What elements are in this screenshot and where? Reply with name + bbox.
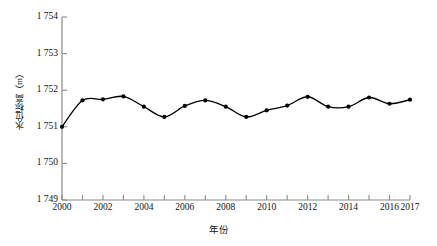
- x-axis-tick-labels: 2000200220042006200820102012201420162017: [0, 0, 437, 246]
- x-tick-label: 2010: [257, 203, 276, 213]
- x-tick-label: 2017: [401, 203, 420, 213]
- x-tick-label: 2008: [216, 203, 235, 213]
- x-tick-label: 2002: [93, 203, 112, 213]
- water-level-line-chart: 水位标高（m） 1 7541 7531 7521 7511 7501 749 2…: [0, 0, 437, 246]
- x-tick-label: 2016: [380, 203, 399, 213]
- x-tick-label: 2012: [298, 203, 317, 213]
- x-tick-label: 2006: [175, 203, 194, 213]
- x-tick-label: 2000: [53, 203, 72, 213]
- x-axis-title: 年份: [0, 222, 437, 236]
- x-tick-label: 2004: [134, 203, 153, 213]
- x-tick-label: 2014: [339, 203, 358, 213]
